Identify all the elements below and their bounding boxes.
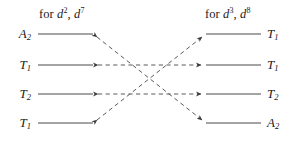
connector-left4-right1 — [97, 37, 202, 120]
left-solid-stems — [38, 34, 93, 123]
connection-lines-layer — [0, 0, 298, 142]
connector-left1-right4 — [97, 37, 202, 120]
diagonal-dashed-connectors — [97, 37, 202, 120]
horizontal-dashed-connectors — [98, 65, 201, 94]
right-solid-stems — [206, 34, 261, 123]
correlation-diagram-figure: for d2, d7 for d3, d8 A2 T1 T2 T1 T1 T1 … — [0, 0, 298, 142]
